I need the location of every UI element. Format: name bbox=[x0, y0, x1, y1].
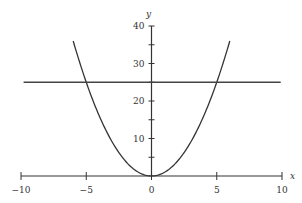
y-axis-label: y bbox=[145, 9, 152, 19]
y-tick-label: 40 bbox=[133, 21, 145, 31]
x-axis: −10−50510x bbox=[12, 171, 296, 195]
x-tick-label: 5 bbox=[214, 185, 220, 195]
y-tick-label: 30 bbox=[133, 59, 145, 69]
y-tick-label: 10 bbox=[133, 134, 145, 144]
chart: −10−50510x 10203040y bbox=[0, 0, 302, 203]
plot-series bbox=[24, 41, 281, 176]
x-tick-label: −10 bbox=[12, 185, 31, 195]
x-tick-label: 0 bbox=[149, 185, 155, 195]
y-axis: 10203040y bbox=[133, 9, 154, 176]
x-tick-label: 10 bbox=[276, 185, 288, 195]
y-tick-label: 20 bbox=[133, 96, 145, 106]
x-tick-label: −5 bbox=[80, 185, 94, 195]
x-axis-label: x bbox=[290, 171, 295, 181]
